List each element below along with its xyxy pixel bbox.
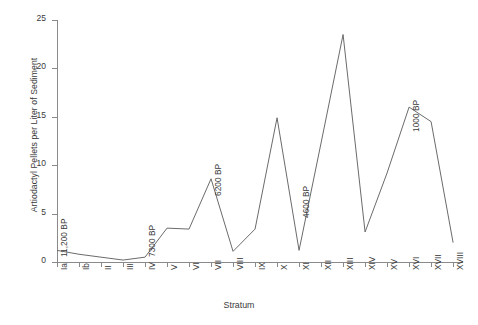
x-axis-tick-label: III [126,263,135,270]
x-axis-tick-mark [145,262,146,267]
bp-annotation-label: 6200 BP [214,164,223,196]
x-axis-tick-mark [299,262,300,267]
x-axis-tick-label: XI [302,262,311,270]
x-axis-tick-label: VIII [236,258,245,270]
x-axis-tick-label: II [104,265,113,270]
x-axis-tick-mark [189,262,190,267]
x-axis-tick-label: IV [148,262,157,270]
x-axis-tick-label: VII [214,260,223,270]
x-axis-tick-label: XVIII [456,252,465,270]
x-axis-tick-mark [79,262,80,267]
x-axis-tick-label: XII [324,260,333,270]
x-axis-tick-mark [453,262,454,267]
y-axis-label: Artiodactyl Pellets per Liter of Sedimen… [29,15,39,255]
x-axis-tick-mark [57,262,58,267]
x-axis-tick-mark [167,262,168,267]
x-axis-tick-mark [277,262,278,267]
x-axis-tick-label: XVI [412,257,421,270]
x-axis-tick-label: Ia [60,263,69,270]
x-axis-tick-mark [123,262,124,267]
x-axis-tick-mark [431,262,432,267]
y-axis-tick-label: 0 [41,256,46,265]
x-axis-tick-label: IX [258,262,267,270]
x-axis-tick-label: X [280,264,289,270]
x-axis-tick-mark [343,262,344,267]
bp-annotation-label: 7300 BP [148,225,157,257]
x-axis-tick-label: Ib [82,263,91,270]
x-axis-tick-mark [233,262,234,267]
x-axis-tick-label: VI [192,262,201,270]
x-axis-tick-label: XVII [434,254,443,270]
x-axis-tick-mark [409,262,410,267]
x-axis-tick-label: V [170,264,179,270]
x-axis-label: Stratum [0,300,478,310]
x-axis-tick-mark [321,262,322,267]
y-axis-tick-label: 5 [41,208,46,217]
x-axis-tick-label: XV [390,259,399,270]
x-axis-tick-mark [255,262,256,267]
data-series-line [57,20,463,262]
x-axis-tick-mark [365,262,366,267]
x-axis-tick-label: XIII [346,258,355,270]
bp-annotation-label: 1000 BP [412,100,421,132]
x-axis-tick-mark [387,262,388,267]
chart-figure: 0510152025 Artiodactyl Pellets per Liter… [0,0,478,325]
bp-annotation-label: 4600 BP [302,186,311,218]
x-axis-tick-mark [211,262,212,267]
bp-annotation-label: 11,200 BP [60,219,69,258]
x-axis-tick-mark [101,262,102,267]
plot-area [57,20,463,262]
x-axis-tick-label: XIV [368,257,377,270]
